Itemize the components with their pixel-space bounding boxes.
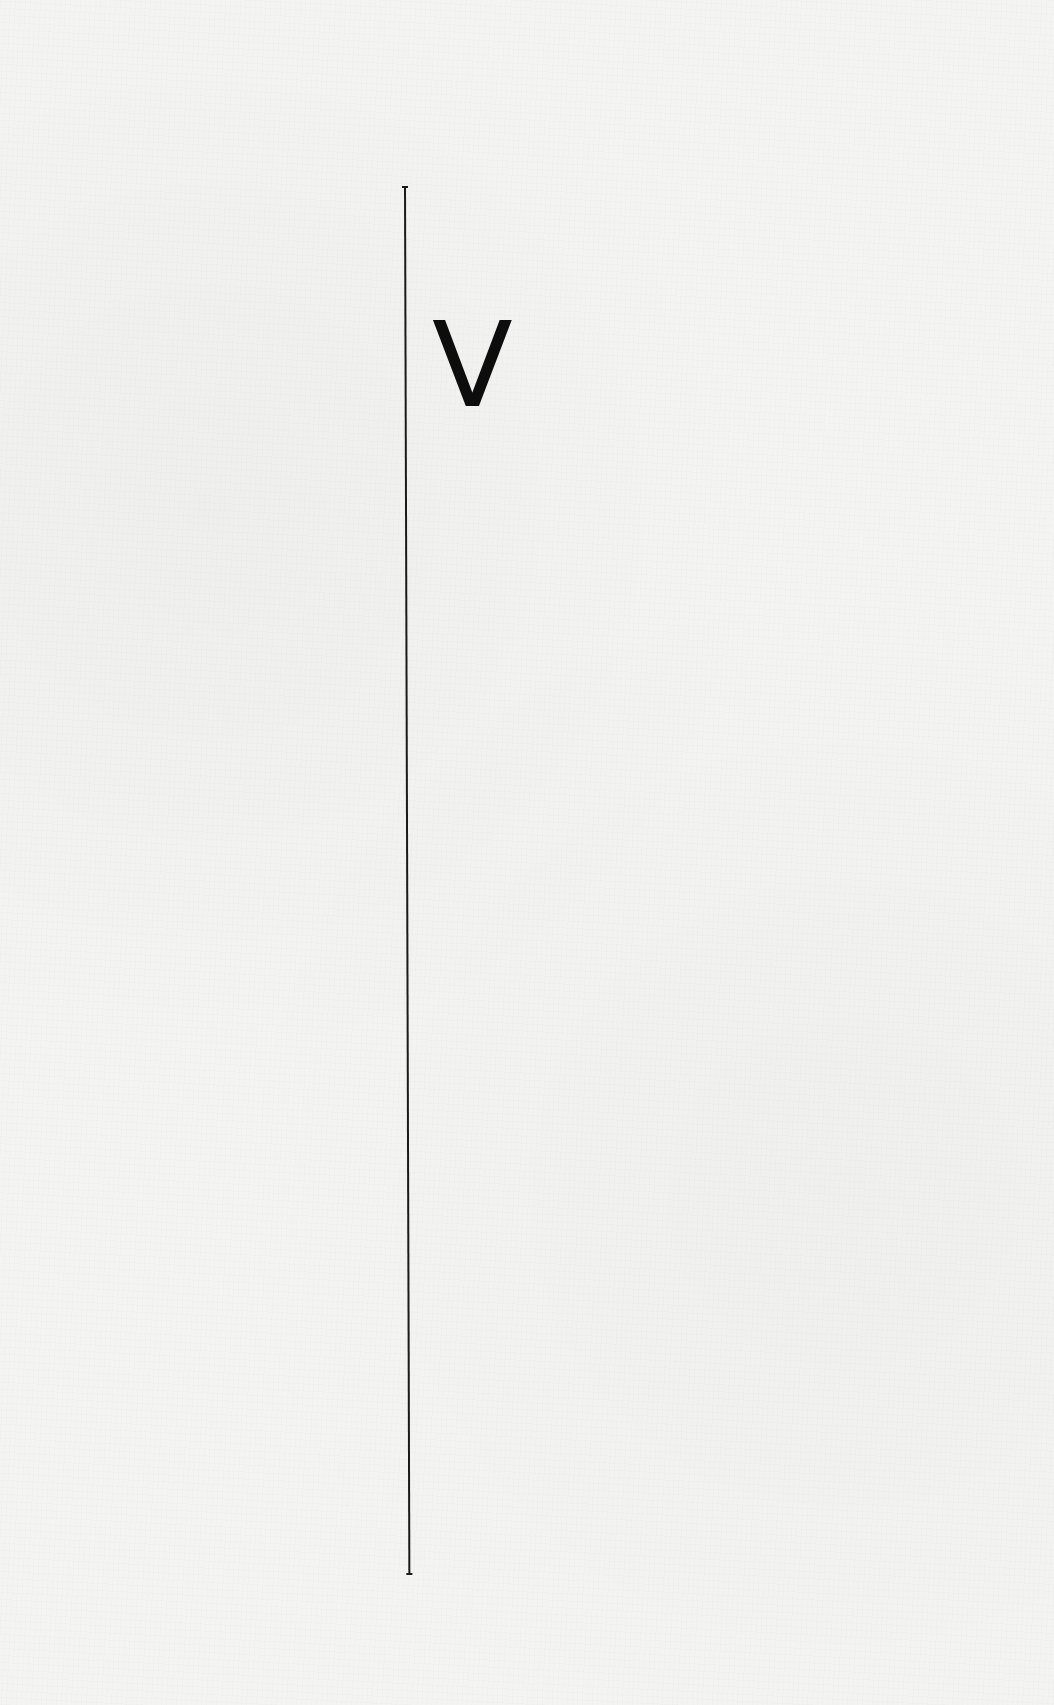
paper-page: V	[0, 0, 1054, 1705]
large-letter-glyph: V	[432, 306, 513, 424]
vertical-rule	[404, 186, 410, 1575]
